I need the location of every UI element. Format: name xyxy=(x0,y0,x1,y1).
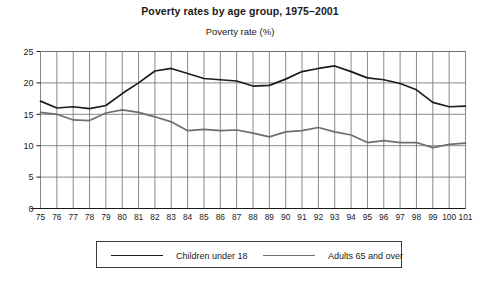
y-axis-tick-label: 0 xyxy=(28,204,33,214)
legend-line-swatch-adults-icon xyxy=(263,255,315,256)
x-axis-tick-label: 86 xyxy=(216,212,226,222)
y-axis-tick-labels: 0510152025 xyxy=(23,47,33,214)
x-axis-tick-labels: 7576777879808182838485868788899091929394… xyxy=(36,212,473,222)
x-axis-tick-label: 101 xyxy=(459,212,473,222)
x-axis-tick-label: 95 xyxy=(363,212,373,222)
y-axis-tick-label: 5 xyxy=(28,172,33,182)
x-axis-tick-label: 91 xyxy=(297,212,307,222)
x-axis-tick-label: 79 xyxy=(101,212,111,222)
legend-line-swatch-children-icon xyxy=(111,255,163,256)
legend-item-adults-65-and-over: Adults 65 and over xyxy=(263,242,403,269)
x-axis-tick-label: 99 xyxy=(428,212,438,222)
x-axis-tick-label: 92 xyxy=(314,212,324,222)
chart-figure: Poverty rates by age group, 1975–2001 Po… xyxy=(0,0,480,281)
y-axis-tick-label: 15 xyxy=(23,110,33,120)
legend-label-children-under-18: Children under 18 xyxy=(176,251,248,261)
y-axis-tick-label: 10 xyxy=(23,141,33,151)
gridlines xyxy=(41,52,466,209)
x-axis-tick-label: 100 xyxy=(442,212,456,222)
x-axis-tick-label: 78 xyxy=(85,212,95,222)
y-axis-tick-label: 25 xyxy=(23,47,33,57)
x-axis-tick-label: 87 xyxy=(232,212,242,222)
x-axis-tick-label: 85 xyxy=(199,212,209,222)
x-axis-tick-label: 89 xyxy=(265,212,275,222)
x-axis-tick-label: 83 xyxy=(167,212,177,222)
x-axis-tick-label: 96 xyxy=(379,212,389,222)
x-axis-tick-label: 77 xyxy=(69,212,79,222)
legend-label-adults-65-and-over: Adults 65 and over xyxy=(328,251,403,261)
x-axis-tick-label: 80 xyxy=(118,212,128,222)
x-axis-tick-label: 90 xyxy=(281,212,291,222)
plot-area: 0510152025 75767778798081828384858687888… xyxy=(0,0,480,281)
x-axis-tick-label: 84 xyxy=(183,212,193,222)
legend-item-children-under-18: Children under 18 xyxy=(111,242,248,269)
x-axis-tick-label: 76 xyxy=(52,212,62,222)
y-axis-tick-label: 20 xyxy=(23,78,33,88)
chart-legend: Children under 18 Adults 65 and over xyxy=(96,241,402,268)
x-axis-tick-label: 82 xyxy=(150,212,160,222)
x-axis-tick-label: 81 xyxy=(134,212,144,222)
x-axis-tick-label: 75 xyxy=(36,212,46,222)
x-axis-tick-label: 94 xyxy=(346,212,356,222)
x-axis-tick-label: 88 xyxy=(248,212,258,222)
x-axis-tick-label: 98 xyxy=(412,212,422,222)
x-axis-tick-label: 97 xyxy=(395,212,405,222)
x-axis-tick-label: 93 xyxy=(330,212,340,222)
